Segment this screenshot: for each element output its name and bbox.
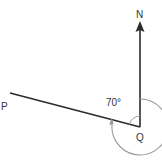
- angle-arc-70: [129, 116, 140, 124]
- point-p-label: P: [1, 101, 8, 112]
- point-q-label: Q: [136, 132, 144, 143]
- angle-label: 70°: [106, 97, 121, 108]
- bearing-diagram: N P Q 70°: [0, 0, 162, 163]
- north-label: N: [136, 9, 143, 20]
